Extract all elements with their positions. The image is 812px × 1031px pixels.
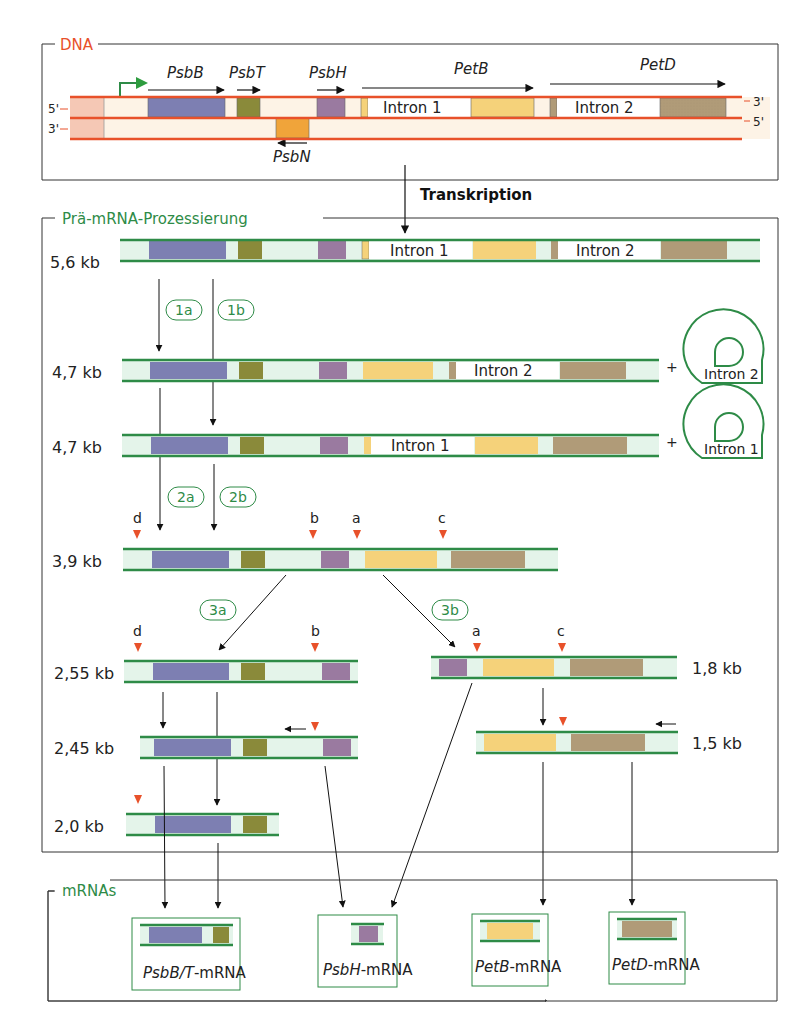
strand-3prime-left: 3': [48, 122, 59, 136]
svg-text:Intron 2: Intron 2: [575, 99, 634, 117]
svg-text:4,7 kb: 4,7 kb: [52, 438, 102, 457]
svg-text:c: c: [438, 510, 446, 526]
svg-text:d: d: [133, 623, 142, 639]
cleavage-site-b: [309, 530, 317, 539]
mrna-psbH: PsbH-mRNA: [318, 915, 413, 987]
rna-5-6kb: Intron 1 Intron 2 5,6 kb: [50, 240, 760, 272]
dna-exon-psbH: [317, 98, 345, 117]
promoter-arrowhead-icon: [136, 77, 148, 89]
svg-text:PsbH-mRNA: PsbH-mRNA: [323, 961, 413, 979]
dna-exon-petB: [471, 98, 534, 117]
dna-exon-psbB: [148, 98, 225, 117]
gene-label-petB: PetB: [454, 60, 488, 78]
svg-text:a: a: [352, 510, 361, 526]
mrna-petB: PetB-mRNA: [472, 914, 562, 986]
rna-3-9kb: 3,9 kb: [52, 549, 558, 571]
transcription-label: Transkription: [420, 186, 532, 204]
gene-label-petD: PetD: [640, 56, 676, 74]
lariat-intron-1: Intron 1: [683, 384, 763, 458]
svg-text:PetB-mRNA: PetB-mRNA: [475, 958, 562, 976]
mrnas-section: mRNAs PsbB/T-mRNA PsbH-mRNA: [48, 880, 777, 1001]
lariat-intron-2: Intron 2: [683, 309, 763, 383]
gene-label-psbN: PsbN: [273, 148, 311, 166]
svg-text:+: +: [666, 359, 678, 375]
rna-2-45kb: 2,45 kb: [54, 737, 358, 758]
svg-text:Intron 2: Intron 2: [704, 366, 759, 382]
section-title-dna: DNA: [60, 36, 94, 54]
svg-text:3b: 3b: [441, 602, 459, 618]
svg-text:Intron 1: Intron 1: [391, 437, 450, 455]
mrna-petD: PetD-mRNA: [609, 912, 700, 984]
section-title-pre-mrna: Prä-mRNA-Prozessierung: [62, 210, 248, 228]
svg-text:a: a: [472, 623, 481, 639]
svg-text:b: b: [310, 510, 319, 526]
svg-text:b: b: [311, 623, 320, 639]
dna-exon-psbT: [237, 98, 260, 117]
cleavage-site-a: [353, 530, 361, 539]
svg-text:+: +: [666, 434, 678, 450]
svg-text:1b: 1b: [227, 302, 245, 318]
svg-text:d: d: [133, 510, 142, 526]
section-title-mrnas: mRNAs: [62, 882, 117, 900]
svg-text:3a: 3a: [209, 602, 227, 618]
dna-section: DNA PsbB PsbT PsbH PetB PetD Intron 1 In…: [42, 36, 778, 180]
rna-2-55kb: 2,55 kb: [54, 661, 358, 683]
rna-1-5kb: 1,5 kb: [476, 732, 742, 753]
svg-text:2,55 kb: 2,55 kb: [54, 664, 114, 683]
gene-label-psbB: PsbB: [167, 64, 204, 82]
svg-text:1,8 kb: 1,8 kb: [692, 659, 742, 678]
svg-text:2b: 2b: [229, 489, 247, 505]
strand-5prime-right: 5': [753, 115, 764, 129]
dna-exon-psbN: [276, 118, 309, 138]
svg-text:2,0 kb: 2,0 kb: [54, 817, 104, 836]
gene-label-psbT: PsbT: [229, 64, 266, 82]
svg-text:c: c: [557, 623, 565, 639]
svg-text:1a: 1a: [175, 302, 193, 318]
svg-text:PsbB/T-mRNA: PsbB/T-mRNA: [143, 964, 247, 982]
cleavage-site-c: [439, 530, 447, 539]
mrna-psbB-T: PsbB/T-mRNA: [132, 918, 247, 990]
svg-text:5,6 kb: 5,6 kb: [50, 253, 100, 272]
svg-text:2,45 kb: 2,45 kb: [54, 739, 114, 758]
psbB-operon-processing-diagram: DNA PsbB PsbT PsbH PetB PetD Intron 1 In…: [0, 0, 812, 1031]
rna-4-7kb-intron2: Intron 2 4,7 kb: [52, 360, 659, 382]
cleavage-site-d: [133, 530, 141, 539]
svg-text:Intron 2: Intron 2: [576, 242, 635, 260]
pre-mrna-section: Prä-mRNA-Prozessierung Intron 1 Intron 2…: [42, 210, 778, 852]
svg-text:2a: 2a: [177, 489, 195, 505]
rna-1-8kb: 1,8 kb: [431, 657, 742, 678]
svg-text:Intron 1: Intron 1: [390, 242, 449, 260]
svg-text:Intron 2: Intron 2: [474, 362, 533, 380]
strand-3prime-right: 3': [753, 95, 764, 109]
rna-2-0kb: 2,0 kb: [54, 814, 279, 836]
promoter-arrow-icon: [120, 83, 138, 97]
svg-text:1,5 kb: 1,5 kb: [692, 734, 742, 753]
rna-4-7kb-intron1: Intron 1 4,7 kb: [52, 435, 659, 457]
gene-label-psbH: PsbH: [309, 64, 347, 82]
svg-text:Intron 1: Intron 1: [383, 99, 442, 117]
svg-text:3,9 kb: 3,9 kb: [52, 552, 102, 571]
svg-text:Intron 1: Intron 1: [704, 441, 759, 457]
svg-text:4,7 kb: 4,7 kb: [52, 363, 102, 382]
strand-5prime-left: 5': [48, 102, 59, 116]
svg-text:PetD-mRNA: PetD-mRNA: [612, 956, 700, 974]
